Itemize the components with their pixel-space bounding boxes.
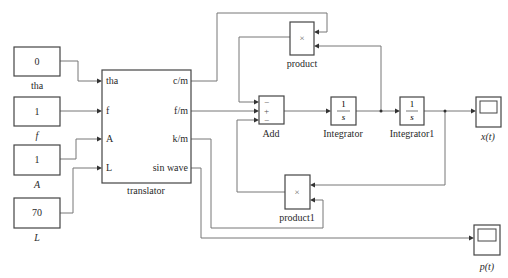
constant-block-f[interactable]: 1 f <box>14 97 60 141</box>
output-port-label: c/m <box>173 75 188 86</box>
block-label: product <box>287 58 318 69</box>
arrowhead <box>310 183 315 188</box>
product1-block[interactable]: × product1 <box>279 175 315 223</box>
transfer-denominator: s <box>342 112 346 122</box>
block-label: x(t) <box>480 131 496 143</box>
sign-minus: − <box>264 115 269 125</box>
arrowhead <box>471 109 476 114</box>
constant-value: 1 <box>35 154 40 165</box>
translator-subsystem[interactable]: tha f A L c/m f/m k/m sin wave translato… <box>102 70 191 196</box>
block-label: f <box>36 130 40 141</box>
arrowhead <box>395 109 400 114</box>
transfer-numerator: 1 <box>410 99 415 109</box>
arrowhead <box>97 109 102 114</box>
arrowhead <box>314 30 319 35</box>
transfer-numerator: 1 <box>341 99 346 109</box>
arrowhead <box>314 44 319 49</box>
junction-dot <box>444 110 447 113</box>
multiply-icon: × <box>299 33 304 43</box>
multiply-icon: × <box>294 187 299 197</box>
constant-block-L[interactable]: 70 L <box>14 198 60 243</box>
block-label: Integrator1 <box>390 128 434 139</box>
input-port-label: L <box>106 162 112 173</box>
add-block[interactable]: − + − Add <box>259 96 284 139</box>
integrator1-block[interactable]: 1 s Integrator1 <box>390 97 434 139</box>
scope-x-block[interactable]: x(t) <box>476 97 501 143</box>
block-label: L <box>33 232 40 243</box>
wire-product-out <box>239 37 290 102</box>
arrowhead <box>97 137 102 142</box>
arrowhead <box>97 79 102 84</box>
arrowhead <box>254 109 259 114</box>
output-port-label: k/m <box>172 133 188 144</box>
scope-icon <box>480 101 497 113</box>
arrowhead <box>254 118 259 123</box>
arrowhead <box>97 166 102 171</box>
wire-tha <box>60 61 98 81</box>
simulink-diagram: 0 tha 1 f 1 A 70 L tha f A L c/m f/m k/m… <box>0 0 508 278</box>
block-label: A <box>33 179 41 190</box>
scope-icon <box>478 229 496 241</box>
constant-value: 1 <box>35 106 40 117</box>
wire-A <box>60 139 98 159</box>
input-port-label: A <box>106 133 114 144</box>
block-label: p(t) <box>479 261 495 273</box>
product-block[interactable]: × product <box>287 22 318 69</box>
block-label: tha <box>31 80 44 91</box>
constant-block-tha[interactable]: 0 tha <box>14 47 60 91</box>
constant-value: 0 <box>35 56 40 67</box>
wire-L <box>60 168 98 213</box>
integrator-block[interactable]: 1 s Integrator <box>323 97 363 139</box>
junction-dot <box>380 110 383 113</box>
arrowhead <box>326 109 331 114</box>
arrowhead <box>310 198 315 203</box>
constant-block-A[interactable]: 1 A <box>14 145 60 190</box>
block-label: translator <box>127 185 165 196</box>
scope-p-block[interactable]: p(t) <box>474 225 500 273</box>
output-port-label: f/m <box>174 105 188 116</box>
arrowhead <box>469 236 474 241</box>
block-label: product1 <box>279 212 315 223</box>
output-port-label: sin wave <box>153 162 189 173</box>
arrowhead <box>254 100 259 105</box>
input-port-label: tha <box>106 75 119 86</box>
block-label: Add <box>262 128 279 139</box>
transfer-denominator: s <box>410 112 414 122</box>
block-label: Integrator <box>323 128 363 139</box>
constant-value: 70 <box>32 207 42 218</box>
